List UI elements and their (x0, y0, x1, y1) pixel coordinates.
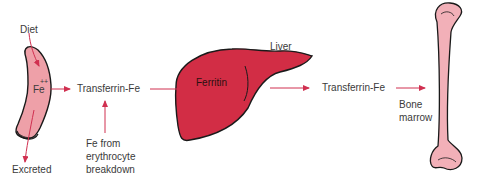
transferrin-fe-label-2: Transferrin-Fe (322, 82, 385, 94)
fe-from-label: Fe from (86, 138, 120, 150)
diagram-graphics (0, 0, 482, 181)
erythrocyte-label: erythrocyte (86, 151, 135, 163)
liver-label: Liver (270, 41, 292, 53)
fe-charge-label: ++ (40, 76, 48, 88)
bone-label: Bone (399, 99, 422, 111)
marrow-label: marrow (399, 112, 432, 124)
liver-shape (176, 49, 312, 141)
diet-label: Diet (20, 24, 38, 36)
iron-metabolism-diagram: Diet Fe ++ Excreted Transferrin-Fe Fe fr… (0, 0, 482, 181)
ferritin-label: Ferritin (196, 77, 227, 89)
excreted-label: Excreted (12, 164, 51, 176)
breakdown-label: breakdown (86, 164, 135, 176)
bone-shape (430, 3, 462, 170)
transferrin-fe-label-1: Transferrin-Fe (77, 83, 140, 95)
